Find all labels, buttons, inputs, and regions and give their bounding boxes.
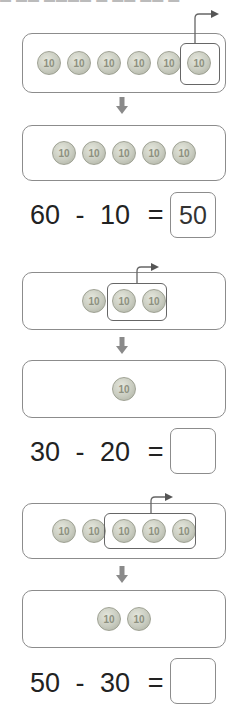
equals-sign: = [148,432,164,472]
answer-box-3[interactable] [170,658,216,704]
down-arrow-icon [116,97,128,115]
down-arrow-icon [116,566,128,584]
coin-icon: 10 [67,51,91,75]
move-out-arrow-icon [148,492,184,516]
coin-icon: 10 [82,519,106,543]
coin-icon: 10 [82,289,106,313]
answer-box-2[interactable] [170,428,216,474]
operand-b: 30 [100,663,130,703]
operand-a: 30 [30,432,60,472]
coin-icon: 10 [142,141,166,165]
coin-icon: 10 [52,141,76,165]
after-coins-box-2: 10 [22,360,226,418]
equals-sign: = [148,663,164,703]
coin-icon: 10 [52,519,76,543]
coin-icon: 10 [172,141,196,165]
answer-box-1[interactable]: 50 [170,192,216,238]
coin-icon: 10 [127,607,151,631]
cropped-header-text: ▬ ▬▬ ▬▬▬▬ ▬ ▬▬ ▬▬ ▬ [0,0,244,4]
taken-coins-highlight-1 [180,43,220,85]
equation-1: 60 - 10 = [30,195,163,235]
after-coins-box-1: 10 10 10 10 10 [22,125,226,181]
minus-sign: - [76,432,85,472]
coin-icon: 10 [82,141,106,165]
down-arrow-icon [116,337,128,355]
minus-sign: - [76,195,85,235]
coin-icon: 10 [127,51,151,75]
coin-icon: 10 [97,51,121,75]
equation-3: 50 - 30 = [30,663,163,703]
taken-coins-highlight-3 [104,513,196,549]
coin-icon: 10 [97,607,121,631]
equals-sign: = [148,195,164,235]
after-coins-box-3: 10 10 [22,590,226,648]
move-out-arrow-icon [134,262,170,286]
operand-b: 20 [100,432,130,472]
taken-coins-highlight-2 [107,283,167,321]
operand-b: 10 [100,195,130,235]
operand-a: 50 [30,663,60,703]
equation-2: 30 - 20 = [30,432,163,472]
coin-icon: 10 [157,51,181,75]
coin-icon: 10 [112,377,136,401]
minus-sign: - [76,663,85,703]
move-out-arrow-icon [190,8,226,44]
coin-icon: 10 [112,141,136,165]
coin-icon: 10 [37,51,61,75]
operand-a: 60 [30,195,60,235]
